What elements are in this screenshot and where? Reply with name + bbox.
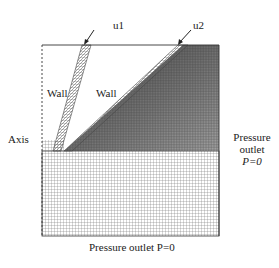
label-wall-1: Wall (47, 87, 68, 99)
right-outlet-line-3: P=0 (226, 155, 278, 167)
label-right-outlet: Pressure outlet P=0 (226, 131, 278, 167)
label-axis: Axis (8, 133, 29, 145)
arrow-u2-icon (180, 30, 191, 42)
label-wall-2: Wall (96, 87, 117, 99)
lower-mesh-region (42, 151, 219, 236)
label-u1: u1 (113, 19, 124, 31)
right-outlet-line-1: Pressure (226, 131, 278, 143)
label-u2: u2 (193, 19, 204, 31)
label-bottom-outlet: Pressure outlet P=0 (89, 241, 175, 253)
right-outlet-line-2: outlet (226, 143, 278, 155)
